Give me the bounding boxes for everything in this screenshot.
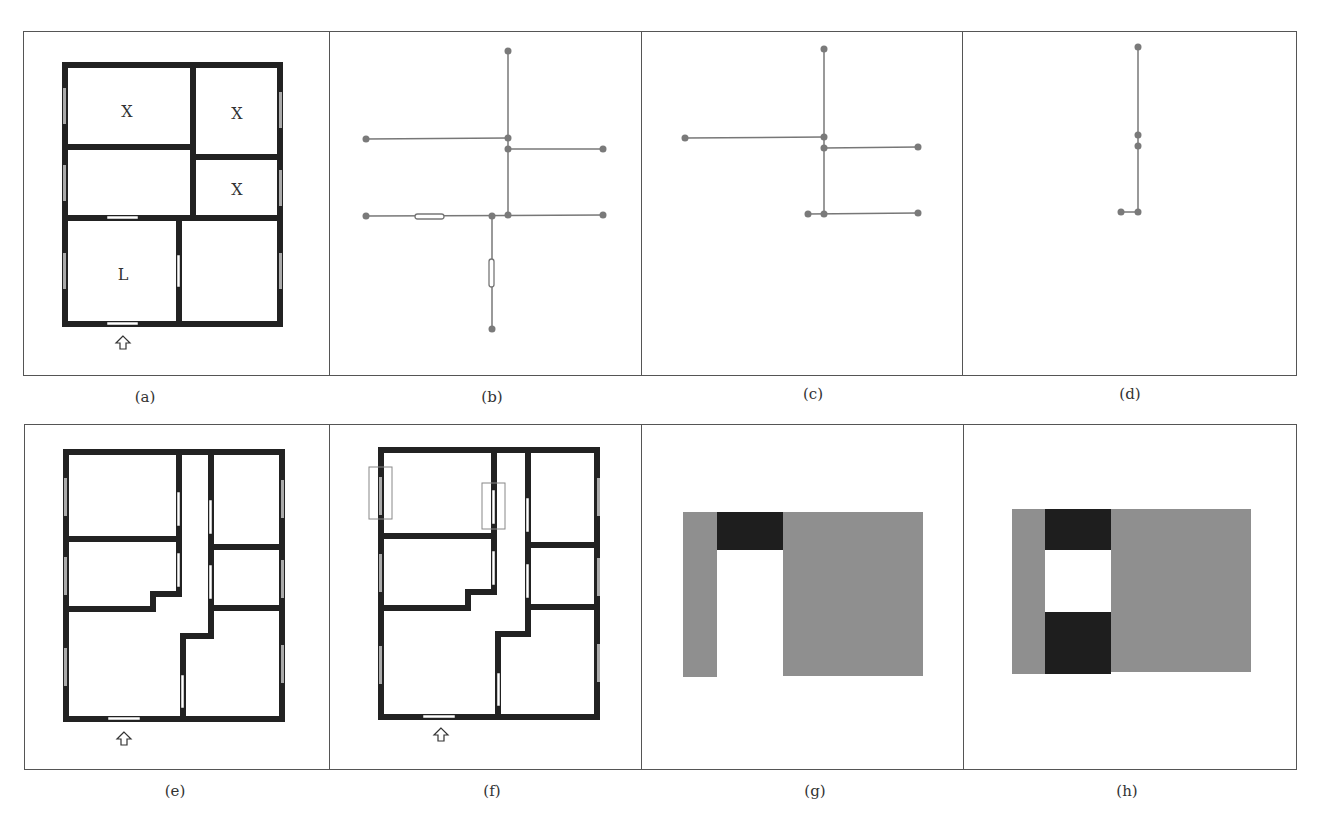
caption-g: (g) [785, 782, 845, 800]
grid-cell-left-gray [1012, 509, 1045, 674]
panel-f-floor-plan [0, 0, 660, 821]
divider-gh [963, 424, 964, 770]
grid-cell-left-gray [683, 512, 717, 677]
caption-c: (c) [783, 385, 843, 403]
grid-cell-dark-top [1045, 509, 1111, 550]
caption-d: (d) [1100, 385, 1160, 403]
grid-cell-right-gray [783, 512, 923, 676]
grid-cell-dark-top [717, 512, 783, 550]
panel-g-grid [683, 512, 923, 677]
panel-h-grid [1012, 509, 1251, 674]
grid-cell-dark-bottom [1045, 612, 1111, 674]
caption-h: (h) [1097, 782, 1157, 800]
grid-cell-right-gray [1111, 509, 1251, 672]
entrance-arrow-icon [434, 728, 448, 741]
